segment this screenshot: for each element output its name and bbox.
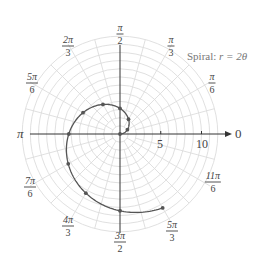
grid-radial-line	[132, 65, 190, 123]
data-point	[81, 111, 85, 115]
grid-radial-line	[26, 109, 105, 130]
angle-label-11pi-over-6: 11π6	[205, 171, 221, 194]
radial-tick-label-10: 10	[196, 137, 208, 152]
data-point	[66, 162, 70, 166]
grid-radial-line	[26, 138, 105, 159]
angle-label-pi: π	[17, 127, 24, 140]
grid-radial-line	[132, 146, 190, 204]
grid-radial-line	[51, 146, 109, 204]
data-point	[118, 132, 122, 136]
angle-label-2pi-over-3: 2π3	[62, 35, 74, 58]
chart-title-equation: r = 2θ	[219, 50, 247, 62]
data-point	[118, 107, 122, 111]
chart-title-prefix: Spiral:	[187, 50, 216, 62]
radial-tick-label-5: 5	[157, 137, 163, 152]
polar-plot	[0, 0, 272, 257]
chart-title: Spiral: r = 2θ	[187, 50, 247, 62]
grid-radial-line	[95, 150, 116, 229]
angle-label-3pi-over-2: 3π2	[114, 231, 126, 254]
data-point	[67, 132, 71, 136]
grid-radial-line	[124, 150, 145, 229]
angle-label-pi-over-6: π6	[208, 72, 215, 95]
angle-label-5pi-over-6: 5π6	[26, 72, 38, 95]
angle-label-7pi-over-6: 7π6	[24, 176, 36, 199]
angle-label-pi-over-2: π2	[116, 23, 123, 46]
data-point	[127, 117, 131, 121]
data-point	[84, 191, 88, 195]
angle-label-zero: 0	[235, 127, 242, 140]
data-point	[161, 206, 165, 210]
angle-label-pi-over-3: π3	[167, 35, 174, 58]
grid-radial-line	[124, 40, 145, 119]
data-point	[126, 128, 130, 132]
data-point	[101, 103, 105, 107]
grid-radial-line	[95, 40, 116, 119]
axis-arrow-icon	[225, 131, 232, 137]
grid-radial-line	[51, 65, 109, 123]
angle-label-5pi-over-3: 5π3	[166, 220, 178, 243]
angle-label-4pi-over-3: 4π3	[62, 215, 74, 238]
data-point	[118, 209, 122, 213]
grid-radial-line	[136, 109, 215, 130]
